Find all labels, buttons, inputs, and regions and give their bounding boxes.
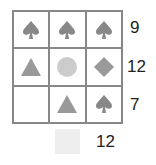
cell-0-0 [13, 11, 49, 48]
spade-icon [22, 20, 40, 40]
spade-icon [95, 20, 113, 40]
row-sum-2: 12 [127, 57, 146, 77]
spade-icon [58, 20, 76, 40]
column-sum: 12 [96, 132, 115, 152]
cell-2-0 [13, 86, 49, 123]
cell-0-2 [86, 11, 122, 48]
answer-box [55, 129, 80, 154]
row-sum-3: 7 [130, 95, 139, 115]
cell-0-1 [49, 11, 85, 48]
cell-1-2 [86, 48, 122, 85]
triangle-icon [20, 57, 42, 77]
circle-icon [56, 56, 78, 78]
cell-2-2 [86, 86, 122, 123]
cell-1-0 [13, 48, 49, 85]
cell-2-1 [49, 86, 85, 123]
cell-1-1 [49, 48, 85, 85]
spade-icon [95, 94, 113, 114]
diamond-icon [93, 56, 115, 78]
triangle-icon [56, 94, 78, 114]
puzzle-grid [12, 10, 123, 124]
row-sum-1: 9 [130, 18, 139, 38]
